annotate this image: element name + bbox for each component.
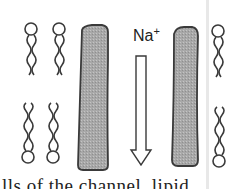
ion-symbol: Na	[133, 27, 153, 44]
diagram-canvas	[0, 0, 230, 189]
page-divider	[206, 0, 209, 189]
arrow-down-icon	[131, 56, 151, 165]
ion-charge: +	[153, 25, 159, 37]
lipid-right-bottom	[213, 107, 225, 167]
lipid-left-bottom-1	[22, 103, 34, 163]
lipid-left-bottom-2	[47, 103, 59, 163]
protein-subunit-left	[78, 25, 108, 170]
lipid-left-top-1	[25, 23, 37, 75]
ion-label: Na+	[133, 22, 160, 45]
caption-fragment: lls of the channel, lipid	[2, 176, 189, 189]
lipid-right-top	[212, 25, 224, 77]
ion-channel-diagram: Na+ lls of the channel, lipid	[0, 0, 230, 189]
protein-subunit-right	[172, 27, 198, 166]
lipid-left-top-2	[53, 23, 65, 75]
